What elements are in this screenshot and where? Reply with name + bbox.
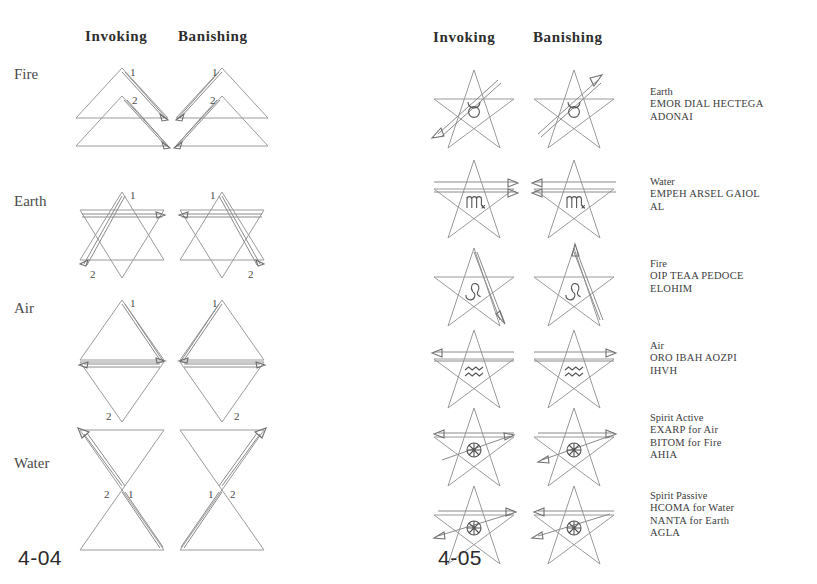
element-name: Spirit Passive xyxy=(650,490,734,502)
figure-number-4-05: 4-05 xyxy=(438,546,482,570)
pentagram-description-spirit-active: Spirit Active EXARP for Air BITOM for Fi… xyxy=(650,412,722,462)
hexagram-row-label-fire: Fire xyxy=(14,66,38,83)
enochian-name: EMPEH ARSEL GAIOL xyxy=(650,188,760,200)
pentagram-column-header-invoking: Invoking xyxy=(433,29,495,46)
pentagram-description-fire: Fire OIP TEAA PEDOCE ELOHIM xyxy=(650,258,744,295)
stroke-number-2: 2 xyxy=(210,94,216,106)
hexagram-column-header-invoking: Invoking xyxy=(85,28,147,45)
stroke-number-2: 2 xyxy=(132,94,138,106)
stroke-number-1: 1 xyxy=(130,66,136,78)
pentagram-description-air: Air ORO IBAH AOZPI IHVH xyxy=(650,340,737,377)
pentagram-fire-invoking xyxy=(430,240,522,332)
pentagram-description-earth: Earth EMOR DIAL HECTEGA ADONAI xyxy=(650,86,764,123)
element-name: Spirit Active xyxy=(650,412,722,424)
pentagram-spirit-passive-banishing xyxy=(530,478,622,570)
enochian-name-air: EXARP for Air xyxy=(650,424,722,436)
element-name: Air xyxy=(650,340,737,352)
hexagram-air-invoking: 1 2 xyxy=(72,294,172,429)
figure-number-4-04: 4-04 xyxy=(18,546,62,570)
stroke-number-1: 1 xyxy=(208,488,214,500)
element-name: Water xyxy=(650,176,760,188)
divine-name: ELOHIM xyxy=(650,283,744,295)
hexagram-fire-banishing: 1 2 xyxy=(172,62,272,152)
divine-name: AL xyxy=(650,201,760,213)
enochian-name: EMOR DIAL HECTEGA xyxy=(650,98,764,110)
stroke-number-2: 2 xyxy=(106,410,112,422)
hexagram-row-label-earth: Earth xyxy=(14,193,46,210)
divine-name: AGLA xyxy=(650,527,734,539)
enochian-name-water: HCOMA for Water xyxy=(650,502,734,514)
hexagram-fire-invoking: 1 2 xyxy=(72,62,172,152)
divine-name: ADONAI xyxy=(650,111,764,123)
stroke-number-1: 1 xyxy=(212,297,218,309)
pentagram-fire-banishing xyxy=(530,240,622,332)
hexagram-water-invoking: 1 2 xyxy=(72,424,172,554)
figure-4-05: Invoking Banishing xyxy=(400,0,817,584)
divine-name: AHIA xyxy=(650,449,722,461)
hexagram-air-banishing: 1 2 xyxy=(172,294,272,429)
stroke-number-2: 2 xyxy=(234,410,240,422)
stroke-number-2: 2 xyxy=(248,268,254,280)
enochian-name: ORO IBAH AOZPI xyxy=(650,352,737,364)
pentagram-description-water: Water EMPEH ARSEL GAIOL AL xyxy=(650,176,760,213)
hexagram-earth-banishing: 1 2 xyxy=(172,186,272,286)
stroke-number-1: 1 xyxy=(212,66,218,78)
stroke-number-2: 2 xyxy=(230,488,236,500)
divine-name: IHVH xyxy=(650,365,737,377)
pentagram-water-banishing xyxy=(530,152,622,244)
element-name: Earth xyxy=(650,86,764,98)
enochian-name: OIP TEAA PEDOCE xyxy=(650,270,744,282)
hexagram-row-label-air: Air xyxy=(14,300,34,317)
stroke-number-2: 2 xyxy=(90,268,96,280)
element-name: Fire xyxy=(650,258,744,270)
pentagram-water-invoking xyxy=(430,152,522,244)
stroke-number-1: 1 xyxy=(130,297,136,309)
pentagram-description-spirit-passive: Spirit Passive HCOMA for Water NANTA for… xyxy=(650,490,734,540)
figure-4-04: Invoking Banishing Fire 1 2 xyxy=(0,0,400,584)
stroke-number-1: 1 xyxy=(130,189,136,201)
pentagram-earth-invoking xyxy=(430,62,522,154)
hexagram-row-label-water: Water xyxy=(14,455,49,472)
stroke-number-2: 2 xyxy=(104,488,110,500)
enochian-name-earth: NANTA for Earth xyxy=(650,515,734,527)
hexagram-earth-invoking: 1 2 xyxy=(72,186,172,286)
enochian-name-fire: BITOM for Fire xyxy=(650,437,722,449)
pentagram-earth-banishing xyxy=(530,62,622,154)
stroke-number-1: 1 xyxy=(210,189,216,201)
stroke-number-1: 1 xyxy=(128,488,134,500)
hexagram-column-header-banishing: Banishing xyxy=(178,28,248,45)
pentagram-column-header-banishing: Banishing xyxy=(533,29,603,46)
hexagram-water-banishing: 1 2 xyxy=(172,424,272,554)
scanned-page: Invoking Banishing Fire 1 2 xyxy=(0,0,817,584)
